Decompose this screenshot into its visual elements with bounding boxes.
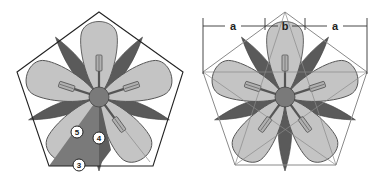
flower-center <box>89 87 109 107</box>
dimension-label-a-right: a <box>332 20 339 32</box>
right-diagram: a b a <box>203 12 367 171</box>
dimension-label-a-left: a <box>230 20 237 32</box>
svg-text:3: 3 <box>77 161 82 170</box>
left-diagram: 5 4 3 <box>17 12 183 171</box>
svg-text:4: 4 <box>97 134 102 143</box>
marker-3: 3 <box>73 159 85 171</box>
marker-5: 5 <box>71 126 83 138</box>
right-flower <box>208 22 363 172</box>
dimension-label-b: b <box>282 20 289 32</box>
marker-4: 4 <box>93 132 105 144</box>
flower-center <box>275 87 295 107</box>
svg-text:5: 5 <box>75 128 80 137</box>
flower-construction-figure: 5 4 3 <box>0 0 382 180</box>
